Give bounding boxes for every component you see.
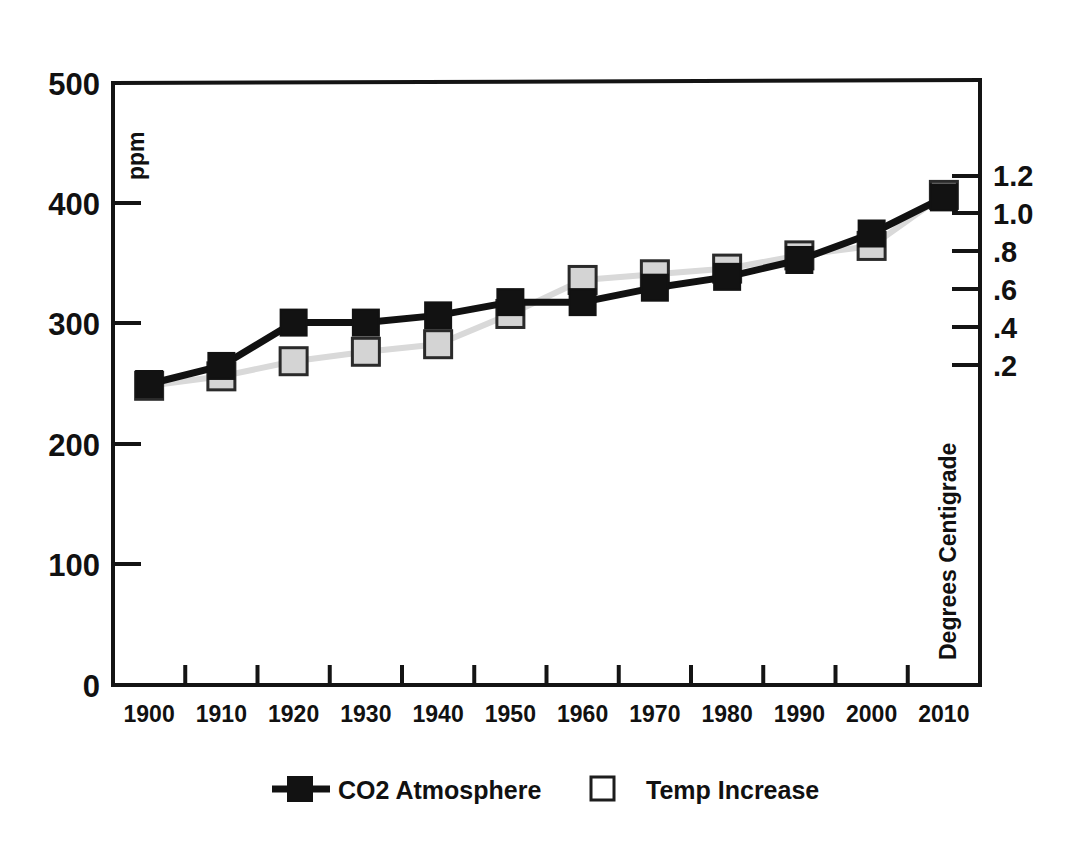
- x-tick-label-1950: 1950: [485, 701, 536, 727]
- line-chart: 500 400 300 200 100 0 ppm 1.2 1.0 .8 .6 …: [0, 0, 1076, 848]
- data-point-1920: [280, 348, 307, 375]
- bottom-axis-ticks: [185, 665, 908, 685]
- x-tick-label-1920: 1920: [268, 701, 319, 727]
- data-point-1950: [497, 289, 523, 315]
- x-tick-label-1960: 1960: [557, 701, 608, 727]
- legend-item-temp[interactable]: Temp Increase: [591, 776, 819, 804]
- x-tick-label-1910: 1910: [196, 701, 247, 727]
- left-tick-label-500: 500: [48, 67, 100, 102]
- legend-item-co2[interactable]: CO2 Atmosphere: [272, 776, 541, 804]
- right-tick-label-0-2: .2: [993, 350, 1017, 382]
- series-co2-atmosphere: [136, 184, 957, 397]
- right-axis-title: Degrees Centigrade: [935, 443, 961, 660]
- right-tick-label-0-8: .8: [993, 236, 1017, 268]
- left-tick-label-400: 400: [48, 187, 100, 222]
- data-point-1930: [352, 338, 379, 365]
- data-point-1940: [425, 331, 452, 358]
- x-tick-label-2000: 2000: [846, 701, 897, 727]
- x-tick-label-1930: 1930: [340, 701, 391, 727]
- right-tick-label-1-0: 1.0: [993, 198, 1033, 230]
- plot-frame: [113, 80, 980, 685]
- frame-top: [113, 80, 980, 83]
- data-point-1970: [642, 275, 668, 301]
- data-point-1940: [425, 302, 451, 328]
- x-tick-label-2010: 2010: [918, 701, 969, 727]
- chart-legend: CO2 Atmosphere Temp Increase: [272, 776, 819, 804]
- co2-atmosphere-line: [149, 197, 944, 384]
- right-tick-label-0-4: .4: [993, 312, 1017, 344]
- x-tick-label-1970: 1970: [629, 701, 680, 727]
- left-tick-label-200: 200: [48, 428, 100, 463]
- x-tick-label-1940: 1940: [413, 701, 464, 727]
- filled-square-icon: [288, 777, 312, 801]
- legend-label-temp: Temp Increase: [646, 776, 819, 804]
- right-axis-labels: 1.2 1.0 .8 .6 .4 .2: [993, 160, 1033, 382]
- data-point-1990: [786, 247, 812, 273]
- co2-atmosphere-markers: [136, 184, 957, 397]
- x-tick-label-1980: 1980: [702, 701, 753, 727]
- open-square-icon: [591, 777, 614, 800]
- data-point-2010: [931, 184, 957, 210]
- series-temp-increase: [136, 181, 958, 399]
- left-tick-label-0: 0: [83, 669, 100, 704]
- data-point-1980: [714, 264, 740, 290]
- x-tick-label-1900: 1900: [124, 701, 175, 727]
- data-point-1900: [136, 371, 162, 397]
- left-axis-labels: 500 400 300 200 100 0: [48, 67, 100, 704]
- data-point-1910: [208, 353, 234, 379]
- right-tick-label-1-2: 1.2: [993, 160, 1033, 192]
- left-tick-label-100: 100: [48, 548, 100, 583]
- data-point-1960: [570, 289, 596, 315]
- data-point-1920: [281, 310, 307, 336]
- data-point-2000: [859, 221, 885, 247]
- left-axis-title: ppm: [123, 131, 149, 180]
- temp-increase-line: [149, 195, 944, 386]
- chart-container: 500 400 300 200 100 0 ppm 1.2 1.0 .8 .6 …: [0, 0, 1076, 848]
- right-tick-label-0-6: .6: [993, 274, 1017, 306]
- bottom-axis-labels: 1900191019201930194019501960197019801990…: [124, 701, 970, 727]
- x-tick-label-1990: 1990: [774, 701, 825, 727]
- legend-label-co2: CO2 Atmosphere: [338, 776, 541, 804]
- left-tick-label-300: 300: [48, 307, 100, 342]
- data-point-1930: [353, 310, 379, 336]
